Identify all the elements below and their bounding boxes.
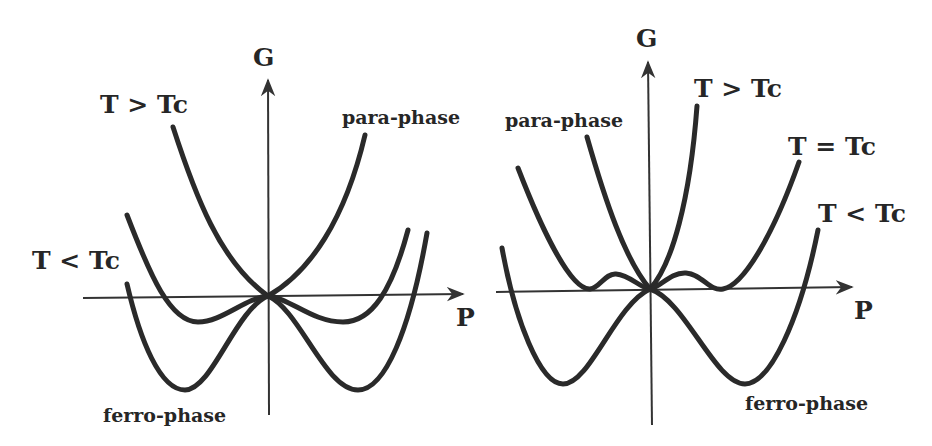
left-curve-below-tc [127,233,427,390]
free-energy-diagram: G P T > Tc T < Tc para-phase ferro-phase… [0,0,932,446]
left-label-para-phase: para-phase [342,106,460,128]
left-label-ferro-phase: ferro-phase [103,404,226,426]
right-g-axis [648,62,652,425]
left-panel: G P T > Tc T < Tc para-phase ferro-phase [32,43,475,426]
right-curve-above-tc [587,106,697,289]
right-p-label: P [854,296,873,325]
left-p-label: P [456,303,475,332]
right-label-ferro-phase: ferro-phase [745,392,868,414]
right-label-above-tc: T > Tc [694,74,782,103]
right-p-axis [496,287,852,292]
right-label-equal-tc: T = Tc [788,132,876,161]
right-panel: G P T > Tc T = Tc T < Tc para-phase ferr… [496,24,906,425]
left-label-above-tc: T > Tc [100,90,188,119]
right-label-para-phase: para-phase [505,109,623,131]
left-label-below-tc: T < Tc [32,246,120,275]
right-curve-below-tc [502,230,818,384]
right-curve-equal-tc [518,162,799,289]
left-g-label: G [253,43,274,72]
right-label-below-tc: T < Tc [818,199,906,228]
right-g-label: G [636,24,657,53]
left-g-axis [268,80,269,415]
